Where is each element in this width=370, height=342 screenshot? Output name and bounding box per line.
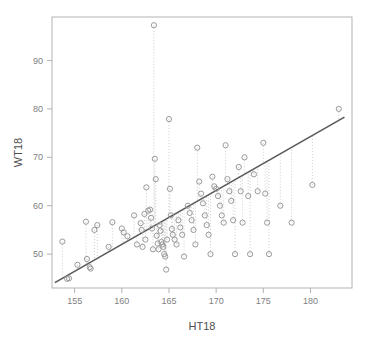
y-axis-title: WT18: [12, 138, 24, 167]
y-axis-tick-label: 90: [33, 56, 43, 66]
x-axis-tick-label: 180: [303, 296, 318, 306]
x-axis-tick-label: 175: [256, 296, 271, 306]
plot-frame: [52, 17, 352, 288]
x-axis-tick-label: 170: [209, 296, 224, 306]
data-point-marker: [110, 220, 115, 225]
x-axis-tick-label: 155: [67, 296, 82, 306]
x-axis-tick-label: 165: [161, 296, 176, 306]
data-point-marker: [92, 227, 97, 232]
data-point-marker: [95, 222, 100, 227]
data-point-marker: [210, 174, 215, 179]
data-point-marker: [106, 244, 111, 249]
scatter-plot-figure: 1551601651701751805060708090HT18WT18: [0, 0, 370, 342]
data-point-marker: [125, 234, 130, 239]
data-point-marker: [60, 239, 65, 244]
data-point-marker: [195, 145, 200, 150]
x-axis-title: HT18: [189, 320, 216, 332]
y-axis-tick-label: 70: [33, 152, 43, 162]
x-axis-tick-label: 160: [114, 296, 129, 306]
data-point-marker: [223, 143, 228, 148]
data-point-marker: [261, 140, 266, 145]
regression-line: [55, 117, 345, 283]
data-point-marker: [131, 213, 136, 218]
data-point-marker: [139, 227, 144, 232]
data-point-marker: [144, 185, 149, 190]
y-axis-tick-label: 50: [33, 249, 43, 259]
y-axis-tick-label: 60: [33, 201, 43, 211]
data-point-marker: [242, 155, 247, 160]
y-axis-tick-label: 80: [33, 104, 43, 114]
chart-canvas: 1551601651701751805060708090HT18WT18: [0, 0, 370, 342]
